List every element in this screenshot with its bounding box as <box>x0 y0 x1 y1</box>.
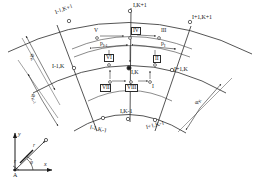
aux-label-vii: VII <box>100 84 111 92</box>
dim-sub-p-i: I <box>164 43 165 48</box>
grid-node-marker <box>126 117 129 120</box>
dim-sub-p-im1: I-1 <box>103 43 108 48</box>
grid-node-marker <box>128 9 131 12</box>
aux-point-marker <box>109 81 112 84</box>
radius-vector <box>15 141 45 170</box>
axis-label-x: x <box>44 161 47 167</box>
axis-label-y: y <box>18 131 21 137</box>
node-label-ip1-kp1: I+1,K+1 <box>192 14 212 20</box>
node-label-ip1-k: I+1,K <box>174 66 188 72</box>
aux-point-marker <box>149 81 152 84</box>
radius-endpoint <box>44 138 47 141</box>
origin-label-a: A <box>13 172 17 178</box>
p-im1-dim <box>92 45 128 48</box>
aux-point-marker <box>154 64 157 67</box>
radius-label-r: r <box>33 143 35 148</box>
node-label-i-kp1: I,K+1 <box>133 2 147 8</box>
arc-aux-p <box>74 46 190 58</box>
aux-label-i: I <box>152 84 154 90</box>
aux-label-iv: IV <box>131 27 141 35</box>
aux-label-viii: VIII <box>125 84 138 92</box>
aux-label-ii: II <box>153 55 161 63</box>
phi-right-arrow <box>186 108 200 130</box>
dim-line-right <box>178 78 232 132</box>
phi-right-arrow-b <box>200 84 221 108</box>
node-label-im1-k: I-1,K <box>52 63 64 69</box>
grid-node-marker <box>188 20 191 23</box>
arc-aux-upper <box>72 37 192 50</box>
origin-dot <box>14 169 16 171</box>
aux-label-v: V <box>94 28 98 34</box>
aux-point-marker <box>130 81 133 84</box>
diagram-vector-layer <box>0 0 258 188</box>
aux-point-marker <box>96 37 99 40</box>
node-label-i-km1: I,K-1 <box>120 108 132 114</box>
aux-point-marker <box>158 37 161 40</box>
grid-node-marker <box>67 19 70 22</box>
grid-node-marker <box>72 66 75 69</box>
aux-label-vi: VI <box>104 54 114 62</box>
angle-arrow-group <box>26 36 221 130</box>
dim-label-p-im1: pI-1 <box>100 40 108 48</box>
node-label-i-k: I,K <box>131 69 139 75</box>
grid-node-marker <box>101 116 104 119</box>
radius-label-r2: r <box>14 159 16 164</box>
angle-label-phi: φ <box>30 160 33 165</box>
aux-point-marker <box>129 37 132 40</box>
phi-km1-arrow-b <box>42 100 58 126</box>
p-i-dim <box>134 45 176 49</box>
dim-line-left-outer <box>22 38 60 105</box>
figure-canvas: I-1,K+1 I,K+1 I+1,K+1 I-1,K I,K I+1,K I-… <box>0 0 258 188</box>
aux-point-marker <box>108 64 111 67</box>
aux-label-iii: III <box>161 28 166 34</box>
radial-line-im1 <box>57 25 97 131</box>
radial-line-i <box>130 8 131 122</box>
dim-label-p-i: pI <box>161 40 165 48</box>
